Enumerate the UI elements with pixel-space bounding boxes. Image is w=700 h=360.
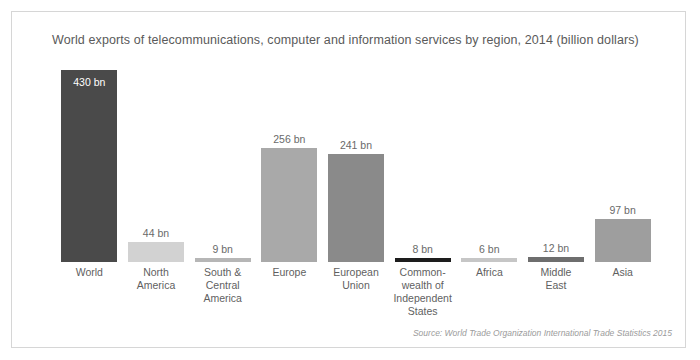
bar-column[interactable]: 97 bn [595,204,651,262]
bar-column[interactable]: 241 bn [328,139,384,262]
bar-value-label: 241 bn [340,139,372,152]
source-note: Source: World Trade Organization Interna… [413,328,672,338]
category-label-line: Common- [385,266,461,279]
category-label-line: World [51,266,127,279]
category-axis-labels: WorldNorthAmericaSouth &CentralAmericaEu… [56,266,656,336]
bar-value-label: 8 bn [412,243,432,256]
category-label: EuropeanUnion [318,266,394,292]
bar-value-label: 97 bn [610,204,636,217]
category-label-line: Independent [385,292,461,305]
category-label-line: wealth of [385,279,461,292]
category-label: South &CentralAmerica [185,266,261,305]
category-label: MiddleEast [518,266,594,292]
category-label-line: America [118,279,194,292]
category-label-line: Union [318,279,394,292]
category-label: World [51,266,127,279]
category-label-line: North [118,266,194,279]
bar-rect[interactable] [261,148,317,262]
bar-column[interactable]: 44 bn [128,227,184,262]
chart-title: World exports of telecommunications, com… [52,33,639,47]
bar-value-label: 430 bn [61,76,117,89]
category-label-line: Middle [518,266,594,279]
bar-column[interactable]: 256 bn [261,133,317,262]
bar-value-label: 256 bn [273,133,305,146]
bar-rect[interactable] [461,258,517,262]
category-label: Asia [585,266,661,279]
category-label-line: South & [185,266,261,279]
category-label: NorthAmerica [118,266,194,292]
bar-rect[interactable]: 430 bn [61,70,117,262]
category-label-line: Europe [251,266,327,279]
bar-value-label: 6 bn [479,243,499,256]
category-label-line: Asia [585,266,661,279]
category-label-line: States [385,305,461,318]
bar-column[interactable]: 430 bn [61,70,117,262]
bar-column[interactable]: 9 bn [195,243,251,262]
chart-figure: World exports of telecommunications, com… [0,0,700,360]
bar-column[interactable]: 8 bn [395,243,451,262]
category-label-line: Africa [451,266,527,279]
bar-plot-area: 430 bn44 bn9 bn256 bn241 bn8 bn6 bn12 bn… [56,70,656,262]
bar-rect[interactable] [128,242,184,262]
bar-rect[interactable] [528,257,584,262]
bar-rect[interactable] [328,154,384,262]
bar-column[interactable]: 6 bn [461,243,517,262]
bar-value-label: 12 bn [543,242,569,255]
bar-rect[interactable] [195,258,251,262]
category-label-line: East [518,279,594,292]
category-label-line: America [185,292,261,305]
bar-column[interactable]: 12 bn [528,242,584,262]
bar-rect[interactable] [595,219,651,262]
category-label: Europe [251,266,327,279]
bar-value-label: 9 bn [212,243,232,256]
bar-rect[interactable] [395,258,451,262]
category-label: Africa [451,266,527,279]
bar-value-label: 44 bn [143,227,169,240]
category-label: Common-wealth ofIndependentStates [385,266,461,318]
category-label-line: European [318,266,394,279]
category-label-line: Central [185,279,261,292]
